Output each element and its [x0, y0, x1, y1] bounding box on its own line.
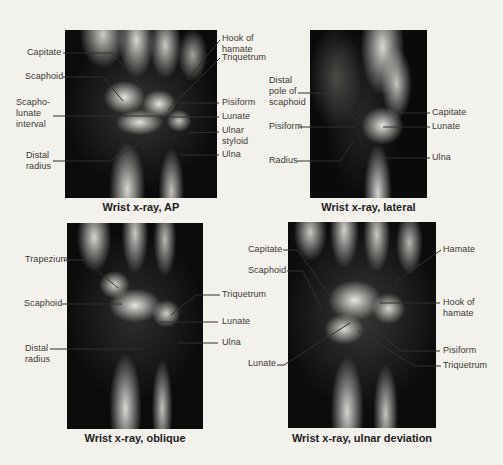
- label-uln-capitate: Capitate: [248, 244, 282, 255]
- label-obl-distal-radius: Distal radius: [25, 343, 50, 365]
- label-ap-scapholunate: Scapho- lunate interval: [16, 97, 50, 130]
- label-lat-lunate: Lunate: [432, 121, 460, 132]
- wrist-xray-figure: Capitate Scaphoid Scapho- lunate interva…: [0, 0, 503, 465]
- xray-image-ulnar-deviation: [288, 222, 436, 428]
- label-ap-ulnar-styloid: Ulnar styloid: [222, 125, 248, 147]
- label-obl-triquetrum: Triquetrum: [222, 289, 266, 300]
- label-lat-radius: Radius: [269, 155, 298, 166]
- label-lat-pisiform: Pisiform: [269, 121, 302, 132]
- label-uln-hook-of-hamate: Hook of hamate: [443, 297, 475, 319]
- xray-image-oblique: [67, 223, 203, 429]
- label-ap-pisiform: Pisiform: [222, 97, 255, 108]
- label-obl-lunate: Lunate: [222, 316, 250, 327]
- label-uln-triquetrum: Triquetrum: [443, 360, 487, 371]
- caption-ulnar-deviation: Wrist x-ray, ulnar deviation: [288, 432, 436, 445]
- label-obl-ulna: Ulna: [222, 337, 241, 348]
- label-uln-scaphoid: Scaphoid: [248, 265, 286, 276]
- label-uln-pisiform: Pisiform: [443, 345, 476, 356]
- label-lat-ulna: Ulna: [432, 152, 451, 163]
- label-obl-scaphoid: Scaphoid: [24, 298, 62, 309]
- label-ap-lunate: Lunate: [222, 111, 250, 122]
- label-uln-lunate: Lunate: [248, 358, 276, 369]
- label-lat-capitate: Capitate: [432, 107, 466, 118]
- xray-image-lateral: [310, 30, 427, 198]
- label-ap-distal-radius: Distal radius: [26, 150, 51, 172]
- caption-lateral: Wrist x-ray, lateral: [310, 201, 427, 214]
- label-uln-hamate: Hamate: [443, 244, 475, 255]
- xray-image-ap: [65, 30, 217, 198]
- caption-oblique: Wrist x-ray, oblique: [67, 432, 203, 445]
- label-ap-capitate: Capitate: [27, 47, 61, 58]
- label-ap-triquetrum: Triquetrum: [222, 52, 266, 63]
- label-obl-trapezium: Trapezium: [25, 254, 68, 265]
- label-lat-distal-pole: Distal pole of scaphoid: [269, 75, 306, 108]
- label-ap-ulna: Ulna: [222, 149, 241, 160]
- caption-ap: Wrist x-ray, AP: [65, 201, 217, 214]
- label-ap-scaphoid: Scaphoid: [25, 71, 63, 82]
